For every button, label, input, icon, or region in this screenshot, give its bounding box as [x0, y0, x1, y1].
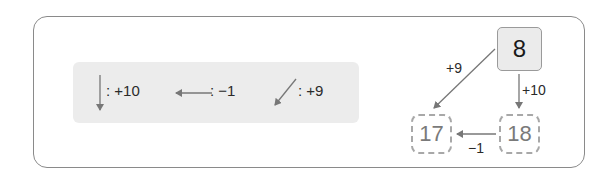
down-edge-label: +10 — [522, 82, 546, 98]
answer-box-17[interactable]: 17 — [411, 114, 452, 154]
left-edge-label: −1 — [468, 140, 484, 156]
answer-box-18[interactable]: 18 — [499, 114, 540, 154]
diag-edge-arrow — [434, 49, 495, 108]
diag-edge-label: +9 — [446, 60, 462, 76]
start-number-box: 8 — [497, 27, 542, 71]
down-left-arrow-icon — [275, 79, 296, 105]
